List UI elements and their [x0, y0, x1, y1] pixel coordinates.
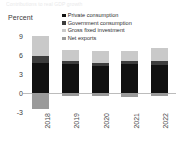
bar-segment[interactable] — [92, 66, 109, 93]
y-axis-unit-label: Percent — [8, 14, 33, 21]
legend-item: Gross fixed investment — [62, 27, 176, 34]
legend-label: Gross fixed investment — [68, 27, 125, 34]
legend-swatch-private-consumption — [62, 14, 66, 18]
x-tick-label: 2021 — [133, 113, 140, 129]
legend-label: Private consumption — [68, 12, 119, 19]
bar-group[interactable] — [32, 36, 49, 112]
bar-segment[interactable] — [62, 64, 79, 93]
bar-group[interactable] — [151, 36, 168, 112]
x-tick-label: 2022 — [162, 113, 169, 129]
bar-group[interactable] — [62, 36, 79, 112]
bar-segment[interactable] — [92, 51, 109, 63]
bar-segment[interactable] — [32, 36, 49, 56]
y-tick-label: 6 — [19, 52, 23, 59]
y-tick-label: 3 — [19, 71, 23, 78]
bar-group[interactable] — [121, 36, 138, 112]
x-axis: 20182019202020212022 — [26, 113, 174, 143]
bar-segment[interactable] — [151, 65, 168, 93]
bar-segment[interactable] — [151, 61, 168, 65]
y-tick-label: 9 — [19, 33, 23, 40]
bar-segment[interactable] — [151, 93, 168, 96]
x-tick-label: 2020 — [103, 113, 110, 129]
bar-segment[interactable] — [121, 64, 138, 93]
x-tick-label: 2018 — [44, 113, 51, 129]
bar-segment[interactable] — [92, 63, 109, 66]
legend-item: Government consumption — [62, 20, 176, 27]
legend-swatch-gross-fixed-investment — [62, 29, 66, 33]
bar-segment[interactable] — [121, 61, 138, 64]
legend-swatch-government-consumption — [62, 21, 66, 25]
bar-segment[interactable] — [32, 56, 49, 63]
bar-segment[interactable] — [62, 93, 79, 96]
bar-segment[interactable] — [62, 61, 79, 64]
bar-segment[interactable] — [151, 48, 168, 61]
legend-label: Government consumption — [68, 20, 132, 27]
bar-group[interactable] — [92, 36, 109, 112]
bar-segment[interactable] — [62, 50, 79, 61]
bar-segment[interactable] — [121, 93, 138, 97]
legend-item: Private consumption — [62, 12, 176, 19]
bar-segment[interactable] — [121, 51, 138, 61]
y-tick-label: -3 — [17, 109, 23, 116]
x-tick-label: 2019 — [73, 113, 80, 129]
bar-segment[interactable] — [32, 93, 49, 109]
bar-segment[interactable] — [32, 63, 49, 93]
bar-segment[interactable] — [92, 93, 109, 96]
clipped-chart-title: Contributions to real GDP growth — [6, 0, 174, 8]
plot-area — [26, 36, 174, 112]
y-axis: 9630-3 — [6, 36, 23, 112]
